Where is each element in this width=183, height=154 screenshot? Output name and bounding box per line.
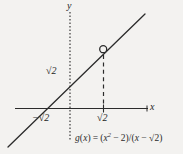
open-circle-hole-marker [100, 46, 107, 53]
equation-radicand: 2 [154, 133, 159, 143]
y-axis-label: y [67, 1, 71, 11]
function-line [8, 14, 145, 147]
equation-close-paren-1: ) [87, 133, 90, 143]
math-figure-panel: y x √2 −√2 √2 g(x) = (x2 − 2)/(x − √2) [0, 0, 183, 154]
x-axis-tick-label-negative-sqrt2: −√2 [32, 113, 49, 123]
x-axis-tick-label-sqrt2: √2 [97, 113, 108, 123]
equation-close-paren-3: ) [159, 133, 162, 143]
y-axis-tick-label-sqrt2: √2 [46, 66, 57, 76]
equation-minus-2: − [141, 133, 146, 143]
equation-radical-sqrt2: √2 [149, 133, 160, 143]
equation-variable-3: x [135, 133, 139, 143]
equation-minus-1: − [113, 133, 118, 143]
equation-exponent: 2 [108, 131, 111, 138]
equation-equals-sign: = [93, 133, 98, 143]
function-equation-caption: g(x) = (x2 − 2)/(x − √2) [75, 131, 163, 143]
x-axis-label: x [150, 102, 154, 112]
